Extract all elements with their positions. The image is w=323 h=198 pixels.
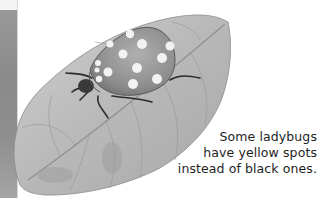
- caption-line-3: instead of black ones.: [178, 161, 317, 177]
- caption-text: Some ladybugs have yellow spots instead …: [178, 129, 317, 177]
- caption-line-2: have yellow spots: [178, 145, 317, 161]
- caption-line-1: Some ladybugs: [178, 129, 317, 145]
